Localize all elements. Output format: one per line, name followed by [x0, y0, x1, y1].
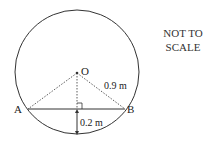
- radius-oa: [28, 73, 77, 109]
- circle-diagram: O A B 0.9 m 0.2 m: [0, 0, 211, 148]
- label-radius: 0.9 m: [104, 80, 127, 91]
- note-line-2: SCALE: [158, 40, 208, 54]
- right-angle-marker: [77, 103, 82, 109]
- label-b: B: [127, 103, 134, 115]
- center-point: [76, 72, 79, 75]
- note-line-1: NOT TO: [158, 26, 208, 40]
- label-depth: 0.2 m: [80, 117, 103, 128]
- arrow-head-up-icon: [75, 109, 79, 113]
- label-o: O: [81, 65, 89, 77]
- not-to-scale-note: NOT TO SCALE: [158, 26, 208, 54]
- label-a: A: [14, 103, 22, 115]
- radius-ob: [77, 73, 125, 109]
